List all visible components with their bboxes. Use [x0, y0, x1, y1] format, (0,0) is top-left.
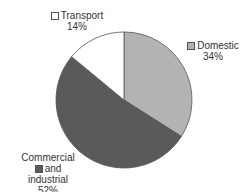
commercial-swatch-icon [35, 165, 43, 173]
domestic-pct: 34% [180, 51, 246, 62]
label-domestic: Domestic 34% [180, 40, 246, 62]
commercial-line1: Commercial [14, 152, 82, 163]
domestic-name: Domestic [197, 40, 239, 51]
transport-pct: 14% [42, 21, 112, 32]
transport-name: Transport [61, 10, 103, 21]
domestic-swatch-icon [187, 42, 195, 50]
commercial-pct: 52% [14, 185, 82, 192]
label-commercial: Commercial and industrial 52% [14, 152, 82, 192]
label-transport: Transport 14% [42, 10, 112, 32]
transport-swatch-icon [51, 12, 59, 20]
